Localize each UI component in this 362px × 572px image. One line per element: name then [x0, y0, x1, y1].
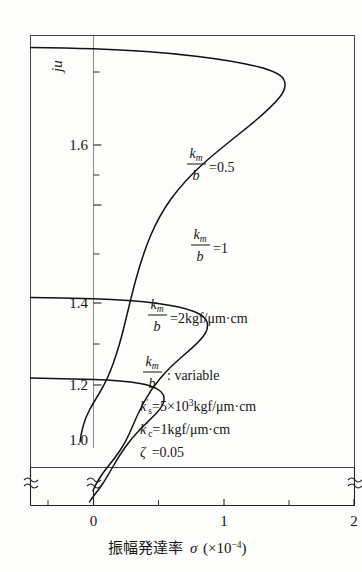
param-kc-line: k′c=1kgf/μm·cm	[140, 421, 230, 439]
annotation-km-b-1: km b =1	[191, 227, 228, 264]
curve-km-b-1	[31, 298, 208, 491]
stability-chart-svg: 1.6 1.4 1.2 1.0 ju 0 1 2	[0, 0, 362, 572]
annotation-0.5-value: =0.5	[209, 160, 234, 175]
annotation-1-value: =1	[213, 241, 228, 256]
x-axis-label-units: (×10−4)	[203, 540, 247, 557]
annotation-2-numerator: km	[150, 297, 163, 314]
annotation-1-denominator: b	[197, 249, 204, 264]
x-tick-label-2: 2	[350, 513, 358, 529]
param-km-b-value: : variable	[167, 368, 219, 383]
parameter-block: km b : variable k′s=5×103kgf/μm·cm k′c=1…	[140, 354, 256, 460]
x-axis-label-main: 振幅発達率	[108, 540, 183, 556]
annotation-0.5-numerator: km	[189, 146, 202, 163]
x-axis-label-sigma: σ	[190, 540, 198, 556]
y-tick-label-1.4: 1.4	[69, 295, 88, 311]
y-axis-label: ju	[49, 60, 65, 74]
x-axis-label-group: 振幅発達率 σ (×10−4)	[108, 540, 247, 557]
param-zeta-line: ζ=0.05	[140, 445, 184, 460]
param-km-b-numerator: km	[145, 354, 158, 371]
annotation-km-b-0.5: km b =0.5	[187, 146, 234, 183]
annotation-2-denominator: b	[154, 319, 161, 334]
x-tick-label-0: 0	[90, 513, 98, 529]
annotation-0.5-denominator: b	[193, 168, 200, 183]
y-tick-marks	[94, 72, 102, 385]
param-km-b-denominator: b	[149, 376, 156, 391]
figure-container: 1.6 1.4 1.2 1.0 ju 0 1 2	[0, 0, 362, 572]
y-tick-label-1.6: 1.6	[69, 137, 88, 153]
param-ks-line: k′s=5×103kgf/μm·cm	[140, 398, 256, 416]
annotation-km-b-2: km b =2kgf/μm·cm	[148, 297, 248, 334]
annotation-2-value: =2kgf/μm·cm	[170, 311, 248, 326]
y-tick-label-1.0: 1.0	[69, 432, 88, 448]
annotation-1-numerator: km	[193, 227, 206, 244]
x-tick-label-1: 1	[220, 513, 228, 529]
